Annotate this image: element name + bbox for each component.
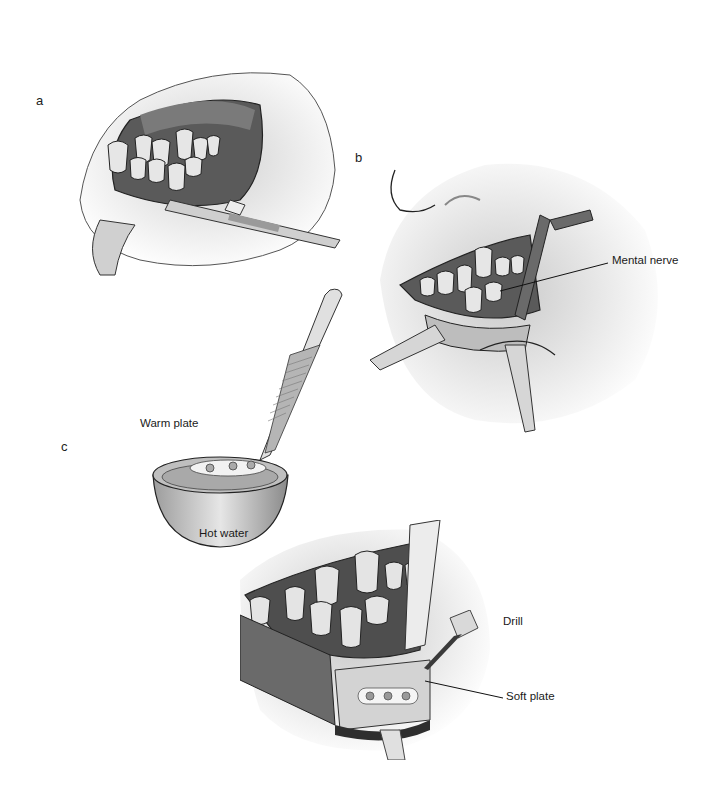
mental-nerve-label: Mental nerve <box>612 254 678 266</box>
drill-illustration <box>420 610 480 675</box>
soft-plate-leader-line <box>425 680 505 700</box>
panel-b-illustration <box>365 150 680 440</box>
mental-nerve-leader-line <box>500 255 610 295</box>
forceps-illustration <box>230 285 350 470</box>
warm-plate-label: Warm plate <box>140 417 198 429</box>
soft-plate-label: Soft plate <box>506 690 555 702</box>
panel-letter-b: b <box>355 150 362 165</box>
panel-letter-c: c <box>61 439 68 454</box>
panel-letter-a: a <box>36 93 43 108</box>
drill-label: Drill <box>503 615 523 627</box>
panel-a-illustration <box>60 30 350 280</box>
